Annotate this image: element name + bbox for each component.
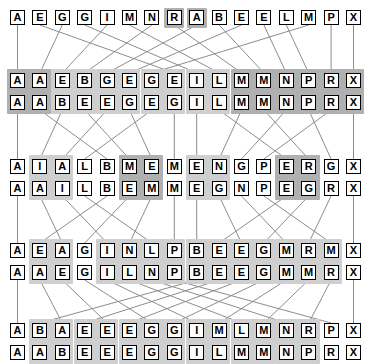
letter-cell: I [100, 10, 115, 25]
letter-cell: L [144, 243, 159, 258]
letter-cell: M [324, 243, 339, 258]
connector-line [242, 110, 287, 159]
letter-cell: I [100, 243, 115, 258]
letter-cell: A [55, 243, 70, 258]
letter-cell: B [100, 159, 115, 174]
letter-cell: L [77, 159, 92, 174]
letter-cell: A [55, 159, 70, 174]
letter-cell: G [100, 73, 115, 88]
letter-cell: M [167, 181, 182, 196]
letter-cell: M [301, 10, 316, 25]
connector-line [62, 110, 107, 159]
letter-cell: A [10, 159, 25, 174]
letter-cell: P [167, 243, 182, 258]
letter-cell: N [144, 265, 159, 280]
letter-cell: G [212, 181, 227, 196]
letter-cell: N [279, 95, 294, 110]
letter-cell: R [301, 159, 316, 174]
letter-cell: X [346, 243, 361, 258]
letter-cell: E [212, 243, 227, 258]
letter-cell: G [167, 345, 182, 360]
letter-cell: M [167, 159, 182, 174]
letter-cell: G [77, 265, 92, 280]
connector-line [85, 196, 152, 243]
letter-cell: E [144, 159, 159, 174]
letter-cell: B [55, 345, 70, 360]
letter-cell: A [10, 243, 25, 258]
letter-cell: G [77, 10, 92, 25]
letter-cell: X [346, 10, 361, 25]
letter-cell: E [100, 345, 115, 360]
letter-cell: I [55, 181, 70, 196]
letter-cell: R [167, 10, 182, 25]
letter-cell: M [256, 95, 271, 110]
letter-cell: M [122, 159, 137, 174]
letter-cell: P [167, 265, 182, 280]
connector-line [40, 196, 62, 243]
connector-line [107, 280, 197, 323]
connector-line [85, 280, 152, 323]
letter-cell: E [279, 181, 294, 196]
connector-line [219, 25, 264, 73]
letter-cell: R [301, 323, 316, 338]
letter-cell: G [55, 10, 70, 25]
letter-cell: A [32, 265, 47, 280]
letter-cell: E [77, 323, 92, 338]
letter-cell: M [234, 345, 249, 360]
letter-cell: M [234, 73, 249, 88]
letter-cell: E [167, 73, 182, 88]
letter-cell: G [256, 265, 271, 280]
letter-cell: L [212, 345, 227, 360]
connector-line [40, 110, 107, 159]
letter-cell: A [10, 95, 25, 110]
letter-cell: M [279, 265, 294, 280]
letter-cell: B [189, 265, 204, 280]
letter-cell: R [324, 73, 339, 88]
letter-cell: P [301, 95, 316, 110]
letter-cell: M [212, 323, 227, 338]
letter-cell: G [77, 243, 92, 258]
letter-cell: N [234, 181, 249, 196]
letter-cell: P [256, 181, 271, 196]
letter-cell: X [346, 73, 361, 88]
connector-line [264, 196, 331, 243]
letter-cell: P [324, 10, 339, 25]
connector-line [107, 25, 197, 73]
letter-cell: X [346, 345, 361, 360]
letter-cell: A [10, 323, 25, 338]
connector-line [219, 110, 241, 159]
letter-cell: R [324, 95, 339, 110]
letter-cell: E [32, 243, 47, 258]
letter-cell: L [77, 181, 92, 196]
letter-cell: X [346, 181, 361, 196]
letter-cell: E [189, 159, 204, 174]
letter-cell: I [189, 323, 204, 338]
letter-cell: L [212, 95, 227, 110]
connector-line [286, 25, 308, 73]
connector-line [62, 280, 107, 323]
letter-cell: P [301, 345, 316, 360]
letter-cell: N [144, 10, 159, 25]
letter-cell: A [32, 73, 47, 88]
letter-cell: M [256, 73, 271, 88]
letter-cell: N [212, 159, 227, 174]
letter-cell: E [256, 10, 271, 25]
connector-line [264, 25, 286, 73]
letter-cell: L [122, 265, 137, 280]
letter-cell: L [279, 10, 294, 25]
connector-line [40, 110, 62, 159]
letter-cell: G [167, 323, 182, 338]
connector-line [40, 280, 62, 323]
connector-line [85, 196, 130, 243]
letter-cell: X [346, 323, 361, 338]
connector-line [264, 280, 309, 323]
connector-line [219, 196, 241, 243]
letter-cell: A [32, 345, 47, 360]
letter-cell: E [189, 181, 204, 196]
letter-cell: G [122, 95, 137, 110]
letter-cell: B [32, 323, 47, 338]
letter-cell: G [144, 345, 159, 360]
letter-cell: P [301, 73, 316, 88]
letter-cell: I [100, 265, 115, 280]
